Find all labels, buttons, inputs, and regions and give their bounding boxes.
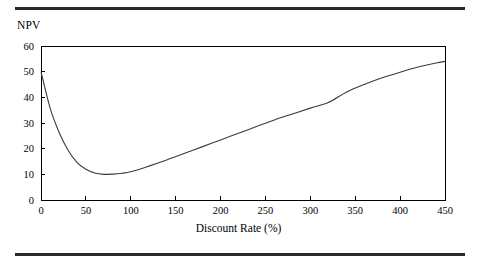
- x-tick-label: 150: [168, 205, 184, 216]
- y-tick-label: 30: [24, 118, 35, 129]
- y-tick-label: 20: [24, 143, 35, 154]
- x-tick-label: 350: [347, 205, 363, 216]
- plot-box-border: [41, 46, 445, 200]
- axes-group: [41, 46, 445, 200]
- x-tick-label: 50: [81, 205, 92, 216]
- figure-container: NPV Discount Rate (%) 050100150200250300…: [0, 0, 477, 261]
- tick-marks-group: [41, 46, 445, 200]
- y-tick-label: 40: [24, 92, 35, 103]
- x-tick-label: 0: [38, 205, 43, 216]
- y-tick-label: 50: [24, 66, 35, 77]
- x-tick-label: 200: [213, 205, 229, 216]
- y-tick-label: 60: [24, 41, 35, 52]
- x-tick-label: 250: [258, 205, 274, 216]
- x-tick-label: 100: [123, 205, 139, 216]
- data-curve: [41, 61, 445, 174]
- tick-labels-group: 0501001502002503003504004500102030405060: [24, 41, 453, 216]
- y-tick-label: 0: [29, 195, 34, 206]
- x-tick-label: 400: [392, 205, 408, 216]
- x-tick-label: 300: [302, 205, 318, 216]
- chart-plot: 0501001502002503003504004500102030405060: [0, 0, 477, 261]
- data-series-group: [41, 61, 445, 174]
- y-tick-label: 10: [24, 169, 35, 180]
- x-tick-label: 450: [437, 205, 453, 216]
